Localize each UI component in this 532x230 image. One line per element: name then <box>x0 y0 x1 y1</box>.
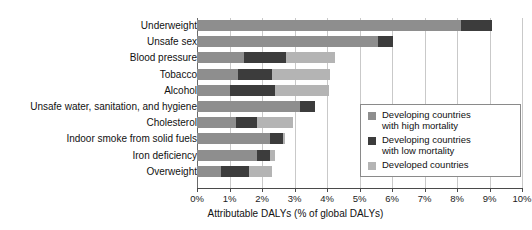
legend-label-line1: Developing countries <box>382 134 471 145</box>
bar-segment-low <box>221 166 249 177</box>
x-tick-label-9: 9% <box>483 193 497 204</box>
legend-label-developed: Developed countries <box>382 160 469 171</box>
bar-segment-high <box>197 69 238 80</box>
bar-segment-dev <box>249 166 272 177</box>
bar-segment-low <box>270 133 283 144</box>
category-label: Cholesterol <box>146 117 197 128</box>
bar-segment-low <box>300 101 315 112</box>
legend-label-line1: Developing countries <box>382 109 471 120</box>
bar-segment-high <box>197 117 236 128</box>
x-tick-label-8: 8% <box>450 193 464 204</box>
category-label: Overweight <box>146 166 197 177</box>
x-tick-label-5: 5% <box>353 193 367 204</box>
bar-segment-high <box>197 20 461 31</box>
stacked-bar <box>197 85 522 96</box>
x-tick-label-3: 3% <box>288 193 302 204</box>
stacked-bar <box>197 69 522 80</box>
legend-item-low-mortality: Developing countries with low mortality <box>368 135 514 156</box>
x-axis-title-text: Attributable DALYs (% of global DALYs) <box>208 208 384 219</box>
bar-segment-low <box>461 20 492 31</box>
stacked-bar <box>197 52 522 63</box>
x-tick-label-1: 1% <box>223 193 237 204</box>
x-tick-label-10: 10% <box>512 193 531 204</box>
x-tick-mark-9 <box>490 188 491 192</box>
x-tick-mark-10 <box>522 188 523 192</box>
bar-segment-dev <box>270 150 275 161</box>
x-axis-title: Attributable DALYs (% of global DALYs) <box>0 208 529 219</box>
bar-segment-high <box>197 101 300 112</box>
category-label: Iron deficiency <box>133 150 197 161</box>
bar-segment-low <box>230 85 275 96</box>
legend-swatch-developed <box>368 162 376 170</box>
bar-segment-dev <box>272 69 330 80</box>
bar-segment-high <box>197 52 244 63</box>
bar-segment-dev <box>283 133 285 144</box>
x-tick-mark-8 <box>457 188 458 192</box>
category-label: Tobacco <box>160 69 197 80</box>
bar-segment-dev <box>275 85 329 96</box>
bar-segment-low <box>257 150 270 161</box>
x-tick-label-2: 2% <box>255 193 269 204</box>
x-tick-mark-6 <box>392 188 393 192</box>
legend-swatch-low-mortality <box>368 137 376 145</box>
legend-item-high-mortality: Developing countries with high mortality <box>368 110 514 131</box>
category-label: Indoor smoke from solid fuels <box>66 133 197 144</box>
bar-segment-low <box>238 69 272 80</box>
legend-swatch-high-mortality <box>368 112 376 120</box>
x-tick-mark-1 <box>230 188 231 192</box>
legend-label-line2: with low mortality <box>382 145 454 156</box>
x-tick-label-0: 0% <box>190 193 204 204</box>
x-tick-mark-4 <box>327 188 328 192</box>
x-tick-mark-7 <box>425 188 426 192</box>
x-tick-mark-3 <box>295 188 296 192</box>
x-tick-mark-5 <box>360 188 361 192</box>
bar-segment-high <box>197 133 270 144</box>
bar-segment-high <box>197 166 221 177</box>
category-label: Blood pressure <box>130 52 197 63</box>
x-tick-label-7: 7% <box>418 193 432 204</box>
legend-label-line2: with high mortality <box>382 120 458 131</box>
category-label: Alcohol <box>164 85 197 96</box>
stacked-bar <box>197 20 522 31</box>
bar-segment-low <box>378 36 393 47</box>
legend-label-high-mortality: Developing countries with high mortality <box>382 110 471 131</box>
bar-segment-dev <box>257 117 293 128</box>
category-label: Underweight <box>141 20 197 31</box>
x-tick-label-4: 4% <box>320 193 334 204</box>
category-label: Unsafe sex <box>147 36 197 47</box>
stacked-bar <box>197 36 522 47</box>
bar-segment-low <box>236 117 257 128</box>
bar-segment-low <box>244 52 286 63</box>
legend-label-line1: Developed countries <box>382 159 469 170</box>
legend-item-developed: Developed countries <box>368 160 514 171</box>
category-label: Unsafe water, sanitation, and hygiene <box>30 101 197 112</box>
legend-label-low-mortality: Developing countries with low mortality <box>382 135 471 156</box>
gridline-10 <box>522 18 523 188</box>
bar-segment-dev <box>286 52 335 63</box>
chart-legend: Developing countries with high mortality… <box>360 104 521 177</box>
bar-segment-high <box>197 36 378 47</box>
bar-segment-high <box>197 150 257 161</box>
x-tick-label-6: 6% <box>385 193 399 204</box>
x-tick-mark-2 <box>262 188 263 192</box>
bar-segment-high <box>197 85 230 96</box>
x-tick-mark-0 <box>197 188 198 192</box>
